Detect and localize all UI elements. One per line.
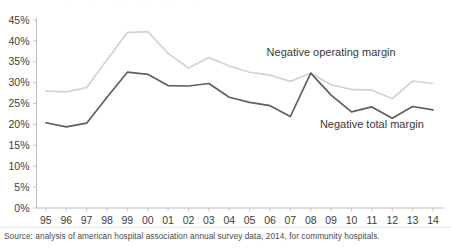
x-axis-tick-label: 10 <box>346 214 358 226</box>
x-axis-tick-label: 08 <box>305 214 317 226</box>
y-axis-tick-label: 35% <box>8 55 29 67</box>
y-axis-tick-label: 5% <box>14 181 29 193</box>
annotation-label-0: Negative operating margin <box>267 46 396 58</box>
source-note: Source: analysis of american hospital as… <box>4 231 380 241</box>
x-axis-tick-label: 97 <box>81 214 93 226</box>
x-axis-tick-label: 07 <box>285 214 297 226</box>
y-axis-tick-label: 25% <box>8 97 29 109</box>
plot-area: 0%5%10%15%20%25%30%35%40%45%959697989900… <box>0 6 451 228</box>
x-axis-tick-label: 99 <box>122 214 134 226</box>
x-axis-tick-label: 09 <box>325 214 337 226</box>
x-axis-tick-label: 06 <box>264 214 276 226</box>
x-axis-tick-label: 02 <box>183 214 195 226</box>
annotation-label-1: Negative total margin <box>320 118 424 130</box>
x-axis-tick-label: 04 <box>223 214 235 226</box>
y-axis-tick-label: 45% <box>8 14 29 26</box>
x-axis-tick-label: 12 <box>386 214 398 226</box>
series-line-negative-operating-margin <box>46 32 433 99</box>
x-axis-tick-label: 00 <box>142 214 154 226</box>
x-axis-tick-label: 98 <box>101 214 113 226</box>
y-axis-tick-label: 30% <box>8 76 29 88</box>
x-axis-tick-label: 05 <box>244 214 256 226</box>
y-axis-tick-label: 20% <box>8 118 29 130</box>
x-axis-tick-label: 96 <box>60 214 72 226</box>
x-axis-tick-label: 95 <box>40 214 52 226</box>
chart-figure: - - - - - - 0%5%10%15%20%25%30%35%40%45%… <box>0 0 451 248</box>
y-axis-tick-label: 40% <box>8 35 29 47</box>
x-axis-tick-label: 03 <box>203 214 215 226</box>
line-chart-svg: 0%5%10%15%20%25%30%35%40%45%959697989900… <box>0 6 451 228</box>
y-axis-tick-label: 0% <box>14 202 29 214</box>
y-axis-tick-label: 15% <box>8 139 29 151</box>
x-axis-tick-label: 13 <box>407 214 419 226</box>
footer-divider <box>0 227 451 228</box>
y-axis-tick-label: 10% <box>8 160 29 172</box>
x-axis-tick-label: 11 <box>366 214 377 226</box>
x-axis-tick-label: 14 <box>427 214 439 226</box>
x-axis-tick-label: 01 <box>162 214 174 226</box>
